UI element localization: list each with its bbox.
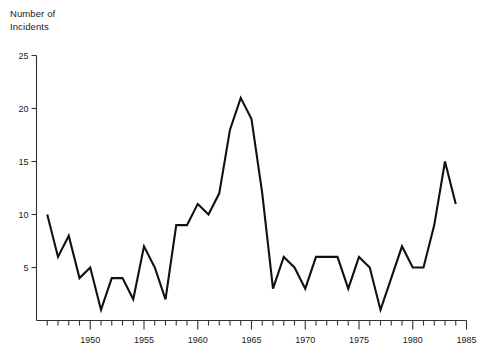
incidents-line-chart: Number of Incidents 510152025 1950195519… <box>0 0 489 354</box>
y-axis-tick-label: 25 <box>18 51 28 61</box>
x-axis-tick-label: 1950 <box>80 335 100 345</box>
y-axis-tick-label: 15 <box>18 157 28 167</box>
x-axis-tick-label: 1975 <box>349 335 369 345</box>
x-axis-tick-label: 1955 <box>134 335 154 345</box>
y-axis-tick-label: 10 <box>18 210 28 220</box>
y-axis: 510152025 <box>18 51 36 321</box>
x-axis-tick-label: 1980 <box>403 335 423 345</box>
data-series-group <box>47 98 456 310</box>
x-axis-tick-label: 1960 <box>188 335 208 345</box>
y-axis-tick-label: 5 <box>23 263 28 273</box>
plot-area: 510152025 195019551960196519701975198019… <box>0 0 489 354</box>
x-axis-tick-label: 1985 <box>456 335 476 345</box>
x-axis-tick-label: 1970 <box>295 335 315 345</box>
x-axis: 19501955196019651970197519801985 <box>37 321 477 345</box>
incidents-line <box>47 98 456 310</box>
x-axis-tick-label: 1965 <box>241 335 261 345</box>
y-axis-tick-label: 20 <box>18 104 28 114</box>
